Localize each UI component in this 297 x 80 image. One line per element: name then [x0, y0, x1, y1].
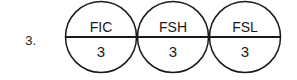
bubble-loop-number-fsl: 3 [241, 43, 249, 60]
bubble-loop-number-fsh: 3 [169, 43, 177, 60]
bubble-tag-fsl: FSL [232, 19, 258, 35]
bubble-loop-number-fic: 3 [97, 43, 105, 60]
bubble-group: FIC 3 FSH 3 FSL 3 [0, 0, 297, 80]
instrument-bubble-diagram: 3. FIC 3 FSH 3 FSL 3 [0, 0, 297, 80]
bubble-tag-fsh: FSH [159, 19, 187, 35]
bubble-tag-fic: FIC [90, 19, 113, 35]
